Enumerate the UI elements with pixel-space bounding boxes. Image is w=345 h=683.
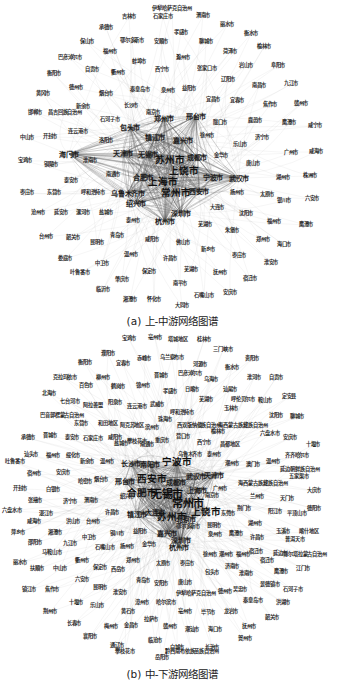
network-node-label: 芜湖市	[199, 397, 214, 402]
network-node-label: 十堰市	[69, 600, 84, 605]
network-node-label: 北京市	[176, 516, 197, 523]
network-node-label: 德阳市	[307, 506, 322, 511]
network-node-label: 亳州市	[178, 609, 193, 614]
network-node-label: 柳州市	[96, 375, 111, 380]
network-node-label: 玉林市	[224, 406, 239, 411]
network-node-label: 洪山市	[66, 519, 81, 524]
network-node-label: 喀什地区	[299, 529, 319, 534]
network-node-label: 青岛市	[136, 578, 151, 583]
network-node-label: 赤峰市	[137, 356, 152, 361]
network-node-label: 烟台市	[94, 477, 109, 482]
network-node-label: 焦作市	[45, 587, 60, 592]
network-node-label: 六盘水市	[2, 508, 22, 513]
network-node-label: 安阳市	[154, 581, 169, 586]
network-node-label: 克拉玛依市	[53, 375, 78, 380]
network-node-label: 亳州市	[148, 335, 163, 340]
network-node-label: 金昌市	[124, 623, 139, 628]
network-node-label: 南阳市	[140, 461, 161, 468]
network-node-label: 南通市	[140, 442, 155, 447]
network-node-label: 石嘴山市	[95, 545, 115, 550]
network-node-label: 铜川市	[110, 531, 125, 536]
network-node-label: 宁波市	[162, 457, 192, 467]
network-node-label: 五家渠市	[289, 474, 309, 479]
network-node-label: 昆明市	[207, 523, 222, 528]
network-node-label: 博尔塔拉蒙古自治州	[283, 552, 327, 557]
network-node-label: 晋城市	[154, 373, 169, 378]
network-node-label: 海口市	[208, 627, 223, 632]
network-node-label: 淮河市	[247, 375, 262, 380]
network-node-label: 泰州市	[207, 452, 222, 457]
network-node-label: 新余市	[80, 459, 95, 464]
network-node-label: 营口市	[176, 434, 191, 439]
network-node-label: 太原市	[156, 561, 171, 566]
network-node-label: 六盘水市	[260, 431, 280, 436]
network-node-label: 保定市	[93, 565, 108, 570]
network-node-label: 安庆市	[283, 435, 298, 440]
network-node-label: 天门市	[280, 496, 295, 501]
network-node-label: 呼伦贝尔市	[231, 397, 256, 402]
network-node-label: 连云港市	[127, 404, 147, 409]
network-node-label: 秦皇岛市	[243, 598, 263, 603]
network-node-label: 珠海市	[158, 417, 173, 422]
network-node-label: 阿拉善盟	[83, 403, 103, 408]
network-node-label: 渭南市	[84, 498, 99, 503]
network-node-label: 抚州市	[242, 624, 257, 629]
network-node-label: 六安市	[75, 577, 90, 582]
network-node-label: 聊城市	[290, 414, 305, 419]
network-node-label: 鹤岗市	[111, 384, 126, 389]
network-node-label: 孝感市	[163, 389, 178, 394]
network-node-label: 郑州市	[126, 558, 141, 563]
network-node-label: 巴彦淖尔市	[178, 371, 203, 376]
network-node-label: 镇江市	[22, 587, 37, 592]
network-node-label: 东莞市	[221, 511, 236, 516]
network-node-label: 杭州市	[169, 544, 190, 551]
network-node-label: 洪湖市	[276, 600, 291, 605]
network-node-label: 鞍山市	[258, 398, 273, 403]
network-node-label: 丽水市	[13, 560, 28, 565]
network-node-label: 玉溪市	[276, 529, 291, 534]
network-node-label: 塔城地区	[168, 337, 188, 342]
network-node-label: 马鞍山市	[42, 550, 62, 555]
network-node-label: 白银市	[46, 487, 61, 492]
network-node-label: 鹰潭市	[229, 531, 244, 536]
network-node-label: 拉萨市	[144, 617, 159, 622]
network-node-label: 攀枝花市	[115, 649, 135, 654]
network-node-label: 七台河市	[60, 399, 80, 404]
network-node-label: 咸海市	[27, 519, 42, 524]
network-node-label: 唐山市	[178, 580, 193, 585]
network-node-label: 济南市	[225, 564, 240, 569]
panel-b-middle-lower-network: 宝鸡市亳州市塔城地区桂林市三门峡市濮阳市赤峰市乌兰察布市贵阳市衡阳市宜春市河源市…	[0, 0, 345, 683]
network-node-label: 河源市	[193, 362, 208, 367]
network-node-label: 桂林市	[197, 337, 212, 342]
network-node-label: 邢台市	[115, 478, 136, 485]
network-node-label: 岳阳市	[155, 655, 170, 660]
network-node-label: 扶顺市	[30, 566, 45, 571]
network-node-label: 宝鸡市	[122, 336, 137, 341]
network-node-label: 南京市	[205, 493, 220, 498]
network-node-label: 三门峡市	[213, 347, 233, 352]
network-node-label: 百色市	[79, 383, 94, 388]
network-node-label: 日喀市	[185, 387, 200, 392]
network-node-label: 绥化市	[66, 453, 81, 458]
network-node-label: 乌兰察布市	[160, 355, 185, 360]
network-node-label: 武威市	[150, 402, 165, 407]
network-node-label: 开封市	[13, 486, 28, 491]
network-node-label: 梅州市	[104, 624, 119, 629]
network-node-label: 宜春市	[116, 361, 131, 366]
network-node-label: 大庆市	[307, 488, 322, 493]
network-node-label: 平顶山市	[287, 511, 307, 516]
network-node-label: 巴音郭楞蒙古自治州	[40, 413, 84, 418]
network-node-label: 和田地区	[98, 421, 118, 426]
network-node-label: 枣庄市	[180, 561, 195, 566]
network-node-label: 毕节市	[201, 610, 216, 615]
network-node-label: 福州市	[46, 453, 61, 458]
network-node-label: 绍兴市	[120, 494, 135, 499]
network-node-label: 宿迁市	[249, 549, 264, 554]
network-node-label: 张掖市	[28, 498, 43, 503]
network-node-label: 漳州市	[135, 600, 150, 605]
network-node-label: 榆林市	[211, 429, 226, 434]
network-node-label: 自贡市	[269, 375, 284, 380]
network-node-label: 徐州市	[203, 552, 218, 557]
network-node-label: 宿迁市	[260, 558, 275, 563]
network-node-label: 湖州市	[248, 521, 263, 526]
